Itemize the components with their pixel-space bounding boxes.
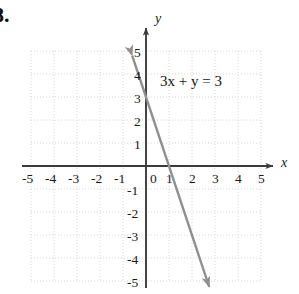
equation-text: 3x + y = 3 (160, 73, 222, 89)
x-tick-label-0: 0 (150, 172, 157, 186)
y-tick-label-5: 5 (134, 46, 141, 60)
y-tick-label-3: 3 (134, 92, 141, 106)
x-tick-label-2: 2 (189, 172, 196, 186)
graph-figure (0, 0, 299, 294)
y-axis-label: y (155, 12, 161, 26)
y-tick-label-1: 1 (134, 138, 141, 152)
x-tick-label-5: 5 (258, 172, 265, 186)
y-tick-label--2: -2 (127, 207, 138, 221)
x-tick-label-4: 4 (235, 172, 242, 186)
y-tick-label--5: -5 (127, 276, 138, 290)
x-tick-label--4: -4 (45, 172, 56, 186)
coordinate-plane-svg (0, 0, 299, 294)
x-tick-label--1: -1 (114, 172, 125, 186)
figure-container: 8. (0, 0, 299, 294)
y-tick-label-2: 2 (134, 115, 141, 129)
x-axis-label: x (281, 156, 287, 170)
x-tick-label-1: 1 (166, 172, 173, 186)
y-tick-label--1: -1 (127, 184, 138, 198)
y-tick-label--4: -4 (127, 253, 138, 267)
y-tick-label--3: -3 (127, 230, 138, 244)
x-tick-label-3: 3 (212, 172, 219, 186)
x-tick-label--3: -3 (68, 172, 79, 186)
x-tick-label--5: -5 (22, 172, 33, 186)
equation-annotation: 3x + y = 3 (160, 74, 222, 89)
y-tick-label-4: 4 (134, 69, 141, 83)
x-tick-label--2: -2 (91, 172, 102, 186)
